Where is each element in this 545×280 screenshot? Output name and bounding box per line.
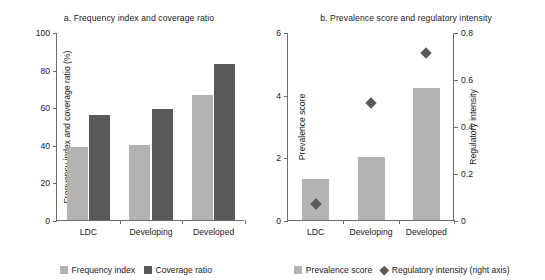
panel-a-title: a. Frequency index and coverage ratio bbox=[3, 13, 275, 23]
legend-diamond-icon bbox=[380, 265, 389, 274]
marker-regulatory-intensity bbox=[421, 47, 432, 58]
y-axis-tick-label: 2 bbox=[276, 153, 281, 163]
legend-item-coverage-ratio: Coverage ratio bbox=[144, 265, 212, 275]
panel-a-plot-area: Frequency index and coverage ratio (%) 0… bbox=[56, 33, 244, 221]
legend-item-prevalence-score: Prevalence score bbox=[294, 265, 372, 275]
y-axis-tick-label: 20 bbox=[40, 178, 50, 188]
x-axis-tick-label: Developed bbox=[193, 227, 234, 237]
y-axis-tick-label: 4 bbox=[276, 91, 281, 101]
figure-two-panel-chart: a. Frequency index and coverage ratio Fr… bbox=[0, 0, 545, 280]
y-axis-tick bbox=[53, 108, 57, 109]
x-axis-tick-label: LDC bbox=[80, 227, 97, 237]
bar-frequency-index bbox=[67, 147, 88, 220]
legend-item-frequency-index: Frequency index bbox=[60, 265, 135, 275]
bar-frequency-index bbox=[129, 145, 150, 220]
x-axis-tick bbox=[399, 220, 400, 224]
bar-prevalence-score bbox=[413, 88, 440, 220]
y-axis-tick bbox=[53, 183, 57, 184]
panel-b-right-axis: 00.20.40.60.8 bbox=[453, 33, 454, 221]
y-axis-tick bbox=[53, 71, 57, 72]
legend-label: Regulatory intensity (right axis) bbox=[392, 265, 510, 275]
x-axis-tick-label: Developing bbox=[350, 227, 393, 237]
legend-swatch-icon bbox=[144, 266, 152, 274]
y-axis-tick bbox=[53, 33, 57, 34]
y-axis-right-tick-label: 0 bbox=[461, 216, 466, 226]
y-axis-tick bbox=[284, 96, 288, 97]
y-axis-tick bbox=[53, 146, 57, 147]
legend-swatch-icon bbox=[294, 266, 302, 274]
bar-coverage-ratio bbox=[89, 115, 110, 220]
y-axis-right-tick bbox=[454, 80, 458, 81]
y-axis-tick-label: 80 bbox=[40, 66, 50, 76]
legend-label: Frequency index bbox=[72, 265, 136, 275]
x-axis-tick bbox=[182, 220, 183, 224]
bar-coverage-ratio bbox=[152, 109, 173, 220]
panel-b-legend: Prevalence score Regulatory intensity (r… bbox=[266, 265, 538, 275]
bar-coverage-ratio bbox=[214, 64, 235, 220]
y-axis-tick-label: 60 bbox=[40, 103, 50, 113]
panel-b-y-axis-title-right: Regulatory intensity bbox=[468, 33, 478, 221]
bar-frequency-index bbox=[192, 95, 213, 220]
y-axis-tick-label: 0 bbox=[276, 216, 281, 226]
y-axis-right-tick bbox=[454, 127, 458, 128]
y-axis-tick-label: 0 bbox=[45, 216, 50, 226]
y-axis-right-tick bbox=[454, 174, 458, 175]
marker-regulatory-intensity bbox=[365, 97, 376, 108]
y-axis-tick bbox=[284, 33, 288, 34]
y-axis-tick bbox=[284, 221, 288, 222]
y-axis-tick bbox=[284, 158, 288, 159]
y-axis-tick-label: 40 bbox=[40, 141, 50, 151]
panel-b-plot-area: Prevalence score 0246LDCDevelopingDevelo… bbox=[287, 33, 453, 221]
x-axis-tick-label: LDC bbox=[307, 227, 324, 237]
x-axis-tick-label: Developing bbox=[130, 227, 173, 237]
panel-b-title: b. Prevalence score and regulatory inten… bbox=[270, 13, 542, 23]
y-axis-right-tick bbox=[454, 33, 458, 34]
y-axis-right-tick bbox=[454, 221, 458, 222]
chart-panel-a: a. Frequency index and coverage ratio Fr… bbox=[0, 0, 272, 280]
legend-swatch-icon bbox=[60, 266, 68, 274]
x-axis-tick bbox=[245, 220, 246, 224]
legend-label: Coverage ratio bbox=[156, 265, 212, 275]
y-axis-tick bbox=[53, 221, 57, 222]
x-axis-tick bbox=[343, 220, 344, 224]
panel-a-legend: Frequency index Coverage ratio bbox=[0, 265, 272, 275]
legend-label: Prevalence score bbox=[306, 265, 372, 275]
y-axis-tick-label: 100 bbox=[36, 28, 50, 38]
bar-prevalence-score bbox=[358, 157, 385, 220]
y-axis-tick-label: 6 bbox=[276, 28, 281, 38]
x-axis-tick-label: Developed bbox=[406, 227, 447, 237]
legend-item-regulatory-intensity: Regulatory intensity (right axis) bbox=[381, 265, 509, 275]
x-axis-tick bbox=[120, 220, 121, 224]
